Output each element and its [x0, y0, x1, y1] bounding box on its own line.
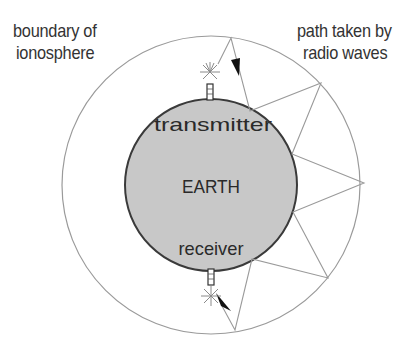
transmitter-spark-icon	[200, 62, 220, 79]
receiver-antenna-icon	[208, 269, 214, 285]
transmitter-label: transmitter	[154, 114, 273, 135]
earth-label: EARTH	[182, 176, 240, 197]
arrowhead-icon	[231, 58, 240, 76]
radio-wave-diagram: transmitter EARTH receiver	[0, 0, 420, 352]
transmitter-antenna-icon	[207, 84, 213, 100]
receiver-spark-icon	[201, 286, 221, 306]
receiver-label: receiver	[179, 238, 245, 259]
